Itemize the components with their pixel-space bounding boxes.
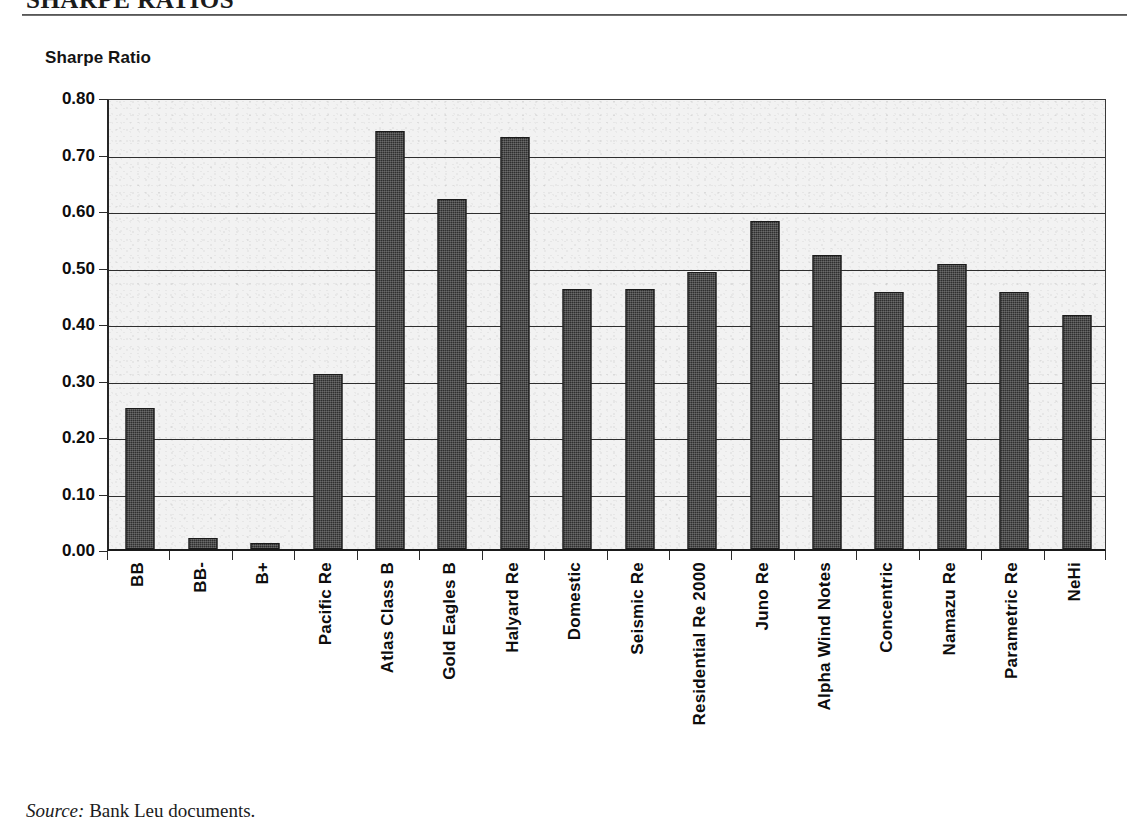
x-label-slot: Namazu Re (919, 562, 981, 772)
x-label-slot: NeHi (1044, 562, 1106, 772)
bar (625, 289, 654, 549)
x-axis-tick (607, 551, 608, 560)
y-axis-tick-label: 0.50 (33, 259, 95, 279)
y-axis-tick (99, 551, 107, 552)
bar-slot (109, 100, 171, 549)
header-divider (22, 14, 1127, 16)
bars-layer (109, 100, 1105, 549)
y-axis-tick-label: 0.40 (33, 315, 95, 335)
source-text: Bank Leu documents. (89, 800, 255, 821)
bar-slot (546, 100, 608, 549)
x-axis-tick (544, 551, 545, 560)
y-axis-tick (99, 212, 107, 213)
x-label-slot: Juno Re (731, 562, 793, 772)
x-axis-tick-label: Seismic Re (628, 562, 648, 655)
x-axis-tick-label: Gold Eagles B (440, 562, 460, 680)
y-axis-tick (99, 269, 107, 270)
bar-slot (671, 100, 733, 549)
x-axis-tick (294, 551, 295, 560)
x-axis-tick-label: Parametric Re (1002, 562, 1022, 679)
bar-slot (733, 100, 795, 549)
bar-slot (296, 100, 358, 549)
x-axis-tick (731, 551, 732, 560)
source-note: Source: Bank Leu documents. (26, 800, 255, 822)
x-axis-tick (919, 551, 920, 560)
y-axis-tick-marks (99, 99, 107, 551)
y-axis-tick-label: 0.70 (33, 146, 95, 166)
x-label-slot: Residential Re 2000 (669, 562, 731, 772)
bar (375, 131, 404, 549)
x-axis-tick (669, 551, 670, 560)
x-axis-tick (232, 551, 233, 560)
y-axis-tick (99, 382, 107, 383)
bar (750, 221, 779, 549)
x-label-slot: B+ (232, 562, 294, 772)
bar-slot (359, 100, 421, 549)
y-axis-tick (99, 99, 107, 100)
x-axis-tick (794, 551, 795, 560)
y-axis-title: Sharpe Ratio (45, 48, 151, 68)
x-label-slot: Concentric (856, 562, 918, 772)
bar-slot (171, 100, 233, 549)
bar-slot (234, 100, 296, 549)
bar (438, 199, 467, 549)
x-label-slot: Pacific Re (294, 562, 356, 772)
source-label: Source: (26, 800, 84, 821)
bar-slot (796, 100, 858, 549)
x-axis-tick (107, 551, 108, 560)
x-axis-tick-label: Namazu Re (940, 562, 960, 655)
y-axis-tick (99, 438, 107, 439)
x-axis-tick (169, 551, 170, 560)
y-axis-tick-label: 0.10 (33, 485, 95, 505)
x-label-slot: Halyard Re (482, 562, 544, 772)
x-axis-tick (419, 551, 420, 560)
x-axis-tick (1105, 551, 1106, 560)
sharpe-ratio-bar-chart: Sharpe Ratio 0.800.700.600.500.400.300.2… (0, 22, 1147, 772)
x-axis-tick-label: Domestic (565, 562, 585, 640)
x-label-slot: Domestic (544, 562, 606, 772)
y-axis-tick-label: 0.30 (33, 372, 95, 392)
x-axis-tick-marks (107, 551, 1106, 560)
bar (813, 255, 842, 549)
bar (251, 543, 280, 549)
x-axis-tick (1044, 551, 1045, 560)
bar-slot (921, 100, 983, 549)
x-axis-tick-labels: BBBB-B+Pacific ReAtlas Class BGold Eagle… (107, 562, 1106, 772)
bar (937, 264, 966, 549)
bar (688, 272, 717, 549)
y-axis-tick-labels: 0.800.700.600.500.400.300.200.100.00 (33, 99, 95, 551)
x-axis-tick-label: Pacific Re (316, 562, 336, 645)
x-axis-tick-label: BB- (191, 562, 211, 593)
bar (1062, 315, 1091, 549)
bar (1000, 292, 1029, 549)
bar-slot (983, 100, 1045, 549)
x-axis-tick-label: Juno Re (753, 562, 773, 630)
bar-slot (858, 100, 920, 549)
bar-slot (609, 100, 671, 549)
y-axis-tick (99, 325, 107, 326)
x-label-slot: Atlas Class B (357, 562, 419, 772)
x-axis-tick-label: B+ (253, 562, 273, 585)
x-axis-tick-label: Halyard Re (503, 562, 523, 653)
bar (126, 408, 155, 549)
bar (875, 292, 904, 549)
x-axis-tick-label: Atlas Class B (378, 562, 398, 673)
x-axis-tick-label: NeHi (1065, 562, 1085, 602)
x-label-slot: Alpha Wind Notes (794, 562, 856, 772)
y-axis-tick-label: 0.80 (33, 89, 95, 109)
x-axis-tick-label: Residential Re 2000 (690, 562, 710, 726)
y-axis-tick-label: 0.20 (33, 428, 95, 448)
x-axis-tick-label: Concentric (877, 562, 897, 653)
x-axis-tick-label: BB (128, 562, 148, 587)
bar-slot (421, 100, 483, 549)
y-axis-tick (99, 156, 107, 157)
x-label-slot: BB (107, 562, 169, 772)
x-label-slot: Parametric Re (981, 562, 1043, 772)
bar (563, 289, 592, 549)
x-label-slot: Seismic Re (607, 562, 669, 772)
x-label-slot: BB- (169, 562, 231, 772)
y-axis-tick-label: 0.60 (33, 202, 95, 222)
bar (500, 137, 529, 549)
y-axis-tick-label: 0.00 (33, 541, 95, 561)
bar (313, 374, 342, 549)
